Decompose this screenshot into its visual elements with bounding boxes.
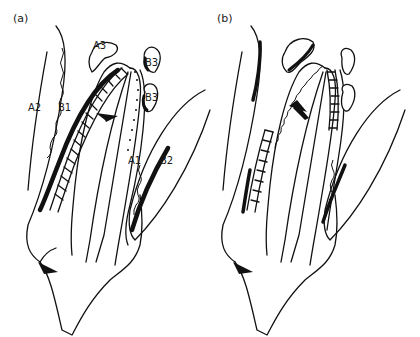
force-arrow-apex [233,262,253,274]
tooth-root-right-edge [115,68,141,265]
label-b1: B1 [58,102,71,113]
label-b2: B2 [160,155,173,166]
resorption-band-left [253,42,260,100]
panel-b: (b) [217,12,405,335]
bone-island-lower-right [342,84,355,111]
label-b3-lower: B3 [145,92,158,103]
bone-island-upper-left [282,39,314,73]
label-a1: A1 [128,155,141,166]
bone-island-upper-right [341,48,354,74]
tooth-crown [40,195,142,335]
label-a3: A3 [93,40,106,51]
tooth-crown [235,195,337,335]
force-arrow-apex [38,262,58,274]
label-a2: A2 [28,102,41,113]
alveolar-line-outer [28,52,47,190]
panel-a: (a) [13,12,210,335]
crown-edge [40,248,56,262]
root-canal-right [291,72,326,262]
compressed-band-lower-left [243,170,250,212]
tooth-movement-diagram: (a) [0,0,420,337]
panel-b-label: (b) [217,12,233,25]
label-b3-upper: B3 [145,57,158,68]
pdl-ladder [50,68,128,212]
alveolar-line-outer [223,52,242,190]
panel-a-label: (a) [13,12,28,25]
